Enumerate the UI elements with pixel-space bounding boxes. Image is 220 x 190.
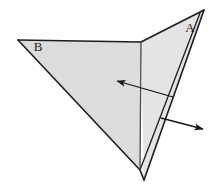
panel-label-a: A — [185, 20, 195, 35]
panel-label-b: B — [34, 39, 43, 54]
figure-container: A B — [0, 0, 220, 190]
folded-sheet-diagram: A B — [0, 0, 220, 190]
